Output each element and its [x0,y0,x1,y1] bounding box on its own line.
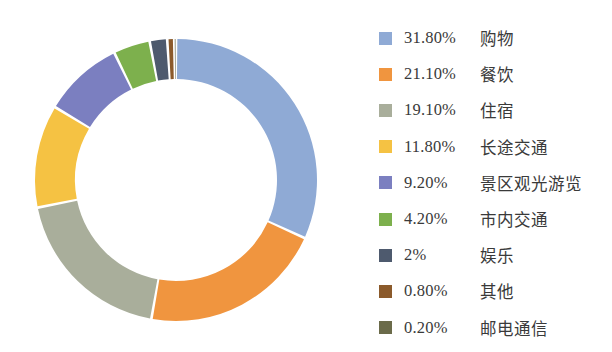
chart-legend: 31.80% 购物 21.10% 餐饮 19.10% 住宿 11.80% 长途交… [379,20,612,340]
donut-slice[interactable] [153,222,304,321]
legend-value-percent: 9.20% [404,173,480,193]
legend-item-dining[interactable]: 21.10% 餐饮 [379,56,612,92]
legend-value-percent: 2% [404,245,480,265]
legend-swatch-icon [379,321,392,334]
legend-label-text: 娱乐 [480,243,514,267]
legend-label-text: 景区观光游览 [480,171,582,195]
donut-slice[interactable] [169,39,174,79]
donut-slice[interactable] [35,108,89,206]
legend-swatch-icon [379,213,392,226]
legend-value-percent: 31.80% [404,28,480,48]
legend-value-percent: 0.20% [404,318,480,338]
legend-item-post-telecom[interactable]: 0.20% 邮电通信 [379,310,612,346]
legend-value-percent: 4.20% [404,209,480,229]
legend-item-long-distance-transport[interactable]: 11.80% 长途交通 [379,129,612,165]
legend-label-text: 市内交通 [480,207,548,231]
legend-swatch-icon [379,68,392,81]
legend-value-percent: 19.10% [404,100,480,120]
legend-label-text: 邮电通信 [480,316,548,340]
legend-label-text: 住宿 [480,98,514,122]
legend-swatch-icon [379,176,392,189]
donut-chart-figure: 31.80% 购物 21.10% 餐饮 19.10% 住宿 11.80% 长途交… [0,0,612,352]
legend-value-percent: 0.80% [404,281,480,301]
legend-swatch-icon [379,32,392,45]
legend-label-text: 餐饮 [480,62,514,86]
legend-swatch-icon [379,140,392,153]
donut-chart-plot-area [0,0,360,352]
donut-slice[interactable] [38,201,157,319]
legend-swatch-icon [379,285,392,298]
legend-value-percent: 21.10% [404,64,480,84]
legend-item-entertainment[interactable]: 2% 娱乐 [379,237,612,273]
donut-slice[interactable] [177,39,317,237]
legend-item-city-transport[interactable]: 4.20% 市内交通 [379,201,612,237]
legend-label-text: 其他 [480,279,514,303]
legend-label-text: 购物 [480,26,514,50]
donut-slice-group [35,39,317,321]
legend-item-other[interactable]: 0.80% 其他 [379,273,612,309]
legend-item-shopping[interactable]: 31.80% 购物 [379,20,612,56]
legend-label-text: 长途交通 [480,135,548,159]
legend-value-percent: 11.80% [404,137,480,157]
legend-item-accommodation[interactable]: 19.10% 住宿 [379,92,612,128]
legend-swatch-icon [379,249,392,262]
legend-swatch-icon [379,104,392,117]
donut-slice[interactable] [175,39,176,79]
donut-chart-svg [0,0,360,352]
legend-item-sightseeing[interactable]: 9.20% 景区观光游览 [379,165,612,201]
